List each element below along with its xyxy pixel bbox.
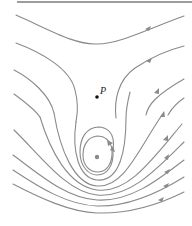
streamline-left-2: [14, 70, 54, 113]
streamline-left-3: [14, 94, 40, 117]
streamline-u-4: [14, 130, 184, 195]
streamline-u-5: [13, 155, 184, 200]
flow-diagram: P: [0, 0, 192, 226]
center-point-marker: [95, 155, 99, 159]
streamline-u-3: [40, 117, 182, 190]
arrow-icon: [160, 111, 165, 117]
arrow-icon: [163, 183, 169, 188]
streamline-top: [16, 15, 184, 44]
streamline-u-7: [13, 184, 184, 213]
streamline-right-2: [146, 79, 184, 115]
arrow-icon: [164, 154, 169, 160]
arrow-icon: [107, 140, 113, 146]
arrow-icon: [163, 135, 168, 141]
loop-outer: [80, 127, 114, 175]
streamline-right-3: [168, 98, 184, 115]
arrow-icon: [154, 88, 159, 94]
point-p-label: P: [99, 85, 106, 96]
point-p-marker: [95, 95, 99, 99]
streamline-left-1: [16, 43, 78, 122]
